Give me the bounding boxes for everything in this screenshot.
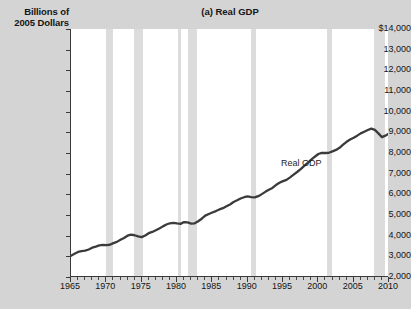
x-axis-minor-tick — [155, 277, 156, 280]
y-axis-tick-label: 3,000 — [345, 250, 411, 260]
x-axis-minor-tick — [183, 277, 184, 280]
y-axis-tick-label: 9,000 — [345, 126, 411, 136]
x-axis-minor-tick — [98, 277, 99, 280]
x-axis-tick-label: 1970 — [85, 281, 125, 291]
x-axis-minor-tick — [233, 277, 234, 280]
x-axis-tick-label: 1995 — [262, 281, 302, 291]
y-axis-tick-label: 6,000 — [345, 188, 411, 198]
x-axis-tick-label: 2010 — [368, 281, 408, 291]
x-axis-tick-label: 1975 — [121, 281, 161, 291]
real-gdp-figure: Billions of 2005 Dollars (a) Real GDP $1… — [0, 0, 411, 309]
x-axis-tick-label: 1980 — [156, 281, 196, 291]
x-axis-minor-tick — [120, 277, 121, 280]
x-axis-minor-tick — [127, 277, 128, 280]
y-axis-tick-mark — [66, 256, 71, 257]
x-axis-minor-tick — [134, 277, 135, 280]
x-axis-minor-tick — [204, 277, 205, 280]
x-axis-tick-label: 1985 — [191, 281, 231, 291]
x-axis-minor-tick — [303, 277, 304, 280]
x-axis-minor-tick — [197, 277, 198, 280]
x-axis-minor-tick — [169, 277, 170, 280]
y-axis-tick-mark — [66, 236, 71, 237]
y-axis-tick-label: 10,000 — [345, 106, 411, 116]
x-axis-minor-tick — [381, 277, 382, 280]
x-axis-minor-tick — [339, 277, 340, 280]
x-axis-minor-tick — [324, 277, 325, 280]
y-axis-tick-label: 7,000 — [345, 168, 411, 178]
x-axis-minor-tick — [162, 277, 163, 280]
y-axis-tick-mark — [66, 132, 71, 133]
series-annotation-label: Real GDP — [281, 158, 322, 168]
y-axis-tick-label: 2,000 — [345, 271, 411, 281]
x-axis-minor-tick — [240, 277, 241, 280]
y-axis-tick-label: 12,000 — [345, 64, 411, 74]
x-axis-minor-tick — [310, 277, 311, 280]
chart-title: (a) Real GDP — [150, 6, 310, 17]
x-axis-minor-tick — [91, 277, 92, 280]
y-axis-tick-mark — [66, 50, 71, 51]
y-axis-tick-mark — [66, 70, 71, 71]
x-axis-minor-tick — [226, 277, 227, 280]
y-axis-tick-label: 8,000 — [345, 147, 411, 157]
x-axis-minor-tick — [148, 277, 149, 280]
x-axis-minor-tick — [218, 277, 219, 280]
x-axis-minor-tick — [261, 277, 262, 280]
y-axis-tick-mark — [66, 215, 71, 216]
y-axis-tick-mark — [66, 174, 71, 175]
y-axis-tick-label: $14,000 — [345, 23, 411, 33]
x-axis-minor-tick — [374, 277, 375, 280]
y-axis-title-line1: Billions of — [0, 6, 69, 17]
plot-area — [70, 29, 388, 277]
y-axis-tick-mark — [66, 91, 71, 92]
y-axis-tick-mark — [66, 29, 71, 30]
x-axis-minor-tick — [268, 277, 269, 280]
y-axis-tick-mark — [66, 194, 71, 195]
x-axis-minor-tick — [275, 277, 276, 280]
x-axis-tick-label: 1965 — [50, 281, 90, 291]
y-axis-tick-mark — [66, 112, 71, 113]
x-axis-minor-tick — [112, 277, 113, 280]
x-axis-minor-tick — [367, 277, 368, 280]
x-axis-minor-tick — [360, 277, 361, 280]
y-axis-tick-label: 5,000 — [345, 209, 411, 219]
x-axis-minor-tick — [254, 277, 255, 280]
x-axis-tick-label: 1990 — [227, 281, 267, 291]
gdp-line-series — [71, 29, 388, 277]
x-axis-minor-tick — [77, 277, 78, 280]
x-axis-tick-label: 2000 — [297, 281, 337, 291]
x-axis-minor-tick — [332, 277, 333, 280]
x-axis-minor-tick — [346, 277, 347, 280]
x-axis-minor-tick — [296, 277, 297, 280]
y-axis-tick-label: 4,000 — [345, 230, 411, 240]
x-axis-tick-label: 2005 — [333, 281, 373, 291]
y-axis-title-line2: 2005 Dollars — [0, 17, 69, 28]
y-axis-tick-mark — [66, 153, 71, 154]
x-axis-minor-tick — [84, 277, 85, 280]
x-axis-minor-tick — [190, 277, 191, 280]
y-axis-tick-label: 13,000 — [345, 44, 411, 54]
x-axis-minor-tick — [289, 277, 290, 280]
y-axis-tick-label: 11,000 — [345, 85, 411, 95]
